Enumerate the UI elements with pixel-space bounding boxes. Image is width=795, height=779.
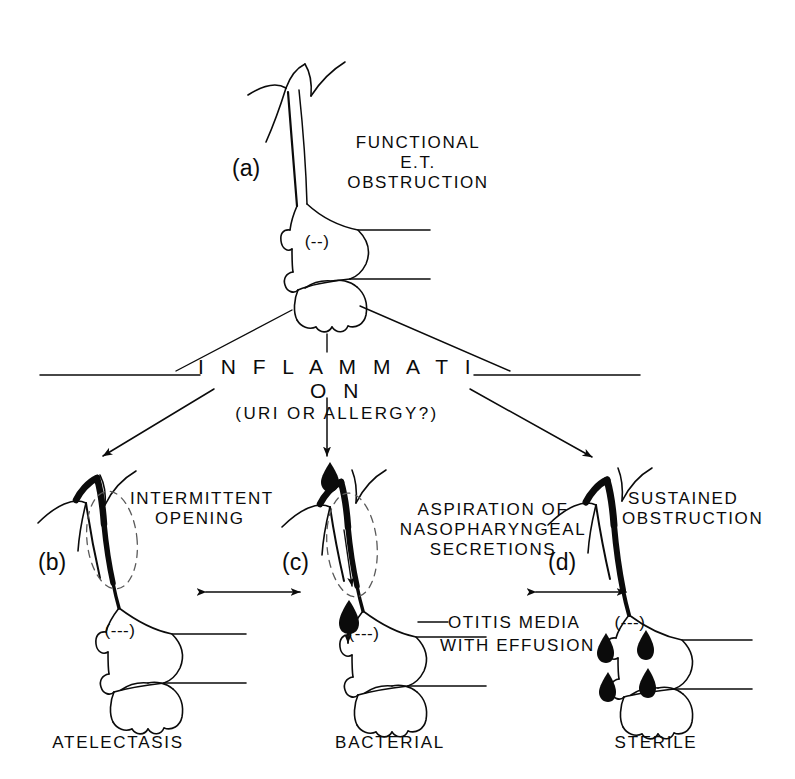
effusion-label-line-1: OTITIS MEDIA (448, 613, 648, 633)
panel-b-title-line-1: INTERMITTENT (130, 489, 320, 509)
panel-d-tag: (d) (548, 549, 576, 576)
panel-b-title-line-2: OPENING (155, 509, 305, 529)
diagram-canvas: (a) FUNCTIONAL E.T. OBSTRUCTION (--) I N… (0, 0, 795, 779)
panel-b-outcome: ATELECTASIS (28, 733, 208, 753)
effusion-label-line-2: WITH EFFUSION (440, 636, 650, 656)
panel-a-title-line-2: E.T. (333, 153, 503, 173)
panel-d-title-line-2: OBSTRUCTION (622, 509, 795, 529)
panel-c-title-line-2: NASOPHARYNGEAL (378, 520, 608, 540)
panel-d-title-line-1: SUSTAINED (628, 489, 795, 509)
panel-c-title-line-1: ASPIRATION OF (378, 500, 608, 520)
panel-c-tag: (c) (282, 549, 309, 576)
panel-b-tag: (b) (38, 549, 66, 576)
panel-b-pressure-marker: (---) (78, 621, 162, 641)
secretion-droplets (321, 462, 656, 702)
inflammation-subtitle: (URI OR ALLERGY?) (197, 404, 477, 424)
panel-c-outcome: BACTERIAL (300, 733, 480, 753)
panel-a-title-line-1: FUNCTIONAL (333, 133, 503, 153)
panel-c-pressure-marker: (---) (322, 624, 406, 644)
panel-a-anatomy (248, 62, 430, 332)
panel-a-title-line-3: OBSTRUCTION (333, 173, 503, 193)
panel-a-pressure-marker: (--) (281, 232, 353, 252)
inflammation-title: I N F L A M M A T I O N (197, 355, 477, 403)
edge-inflammation-to-d (470, 389, 592, 457)
inflammation-node: I N F L A M M A T I O N (URI OR ALLERGY?… (197, 355, 477, 424)
panel-d-outcome: STERILE (566, 733, 746, 753)
panel-a-tag: (a) (232, 155, 260, 182)
